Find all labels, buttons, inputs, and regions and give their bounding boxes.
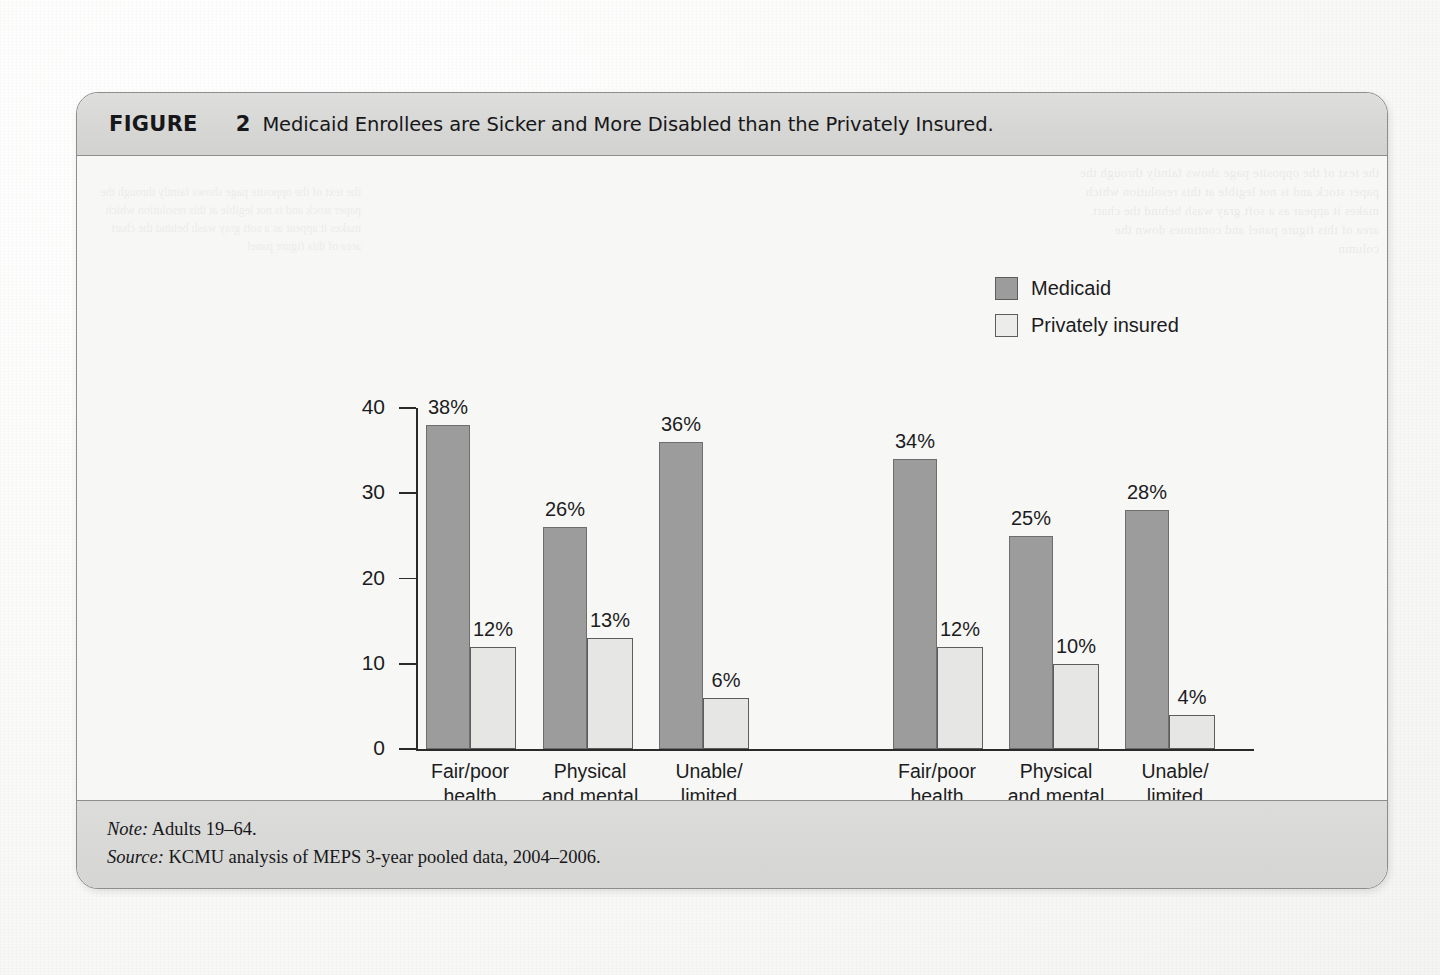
bar-privately-insured: 6% bbox=[703, 698, 749, 749]
bar-medicaid: 26% bbox=[543, 527, 587, 749]
footer-note-text: Adults 19–64. bbox=[148, 819, 256, 839]
bar-value-label: 10% bbox=[1056, 635, 1096, 658]
bar-privately-insured: 10% bbox=[1053, 664, 1099, 749]
figure-header: FIGURE 2 Medicaid Enrollees are Sicker a… bbox=[77, 93, 1387, 156]
bar-value-label: 13% bbox=[590, 609, 630, 632]
figure-label: FIGURE bbox=[109, 112, 198, 136]
category-label-line: Unable/ bbox=[1141, 760, 1208, 782]
bar-medicaid: 38% bbox=[426, 425, 470, 749]
bar-value-label: 34% bbox=[895, 430, 935, 453]
figure-card: the text of the opposite page shows fain… bbox=[76, 92, 1388, 889]
bar-privately-insured: 12% bbox=[937, 647, 983, 749]
bar-privately-insured: 13% bbox=[587, 638, 633, 749]
bar-value-label: 26% bbox=[545, 498, 585, 521]
bar-medicaid: 25% bbox=[1009, 536, 1053, 749]
chart-plot-area: Medicaid Privately insured 010203040 38%… bbox=[77, 155, 1387, 800]
bar-value-label: 38% bbox=[428, 396, 468, 419]
bar-value-label: 28% bbox=[1127, 481, 1167, 504]
footer-source-text: KCMU analysis of MEPS 3-year pooled data… bbox=[164, 847, 601, 867]
bar-medicaid: 34% bbox=[893, 459, 937, 749]
figure-footer: Note: Adults 19–64. Source: KCMU analysi… bbox=[77, 800, 1387, 888]
category-label-line: Fair/poor bbox=[898, 760, 976, 782]
bars-layer: 38%12%26%13%36%6%34%12%25%10%28%4% bbox=[77, 155, 1387, 751]
category-label-line: Physical bbox=[1020, 760, 1093, 782]
category-label-line: Physical bbox=[554, 760, 627, 782]
bar-medicaid: 36% bbox=[659, 442, 703, 749]
figure-title: Medicaid Enrollees are Sicker and More D… bbox=[262, 113, 993, 136]
footer-note: Note: Adults 19–64. bbox=[107, 815, 1387, 843]
bar-value-label: 6% bbox=[712, 669, 741, 692]
footer-note-key: Note: bbox=[107, 819, 148, 839]
footer-source-key: Source: bbox=[107, 847, 164, 867]
bar-privately-insured: 12% bbox=[470, 647, 516, 749]
bar-value-label: 36% bbox=[661, 413, 701, 436]
bar-value-label: 12% bbox=[473, 618, 513, 641]
footer-source: Source: KCMU analysis of MEPS 3-year poo… bbox=[107, 843, 1387, 871]
bar-value-label: 12% bbox=[940, 618, 980, 641]
category-label-line: Fair/poor bbox=[431, 760, 509, 782]
bar-medicaid: 28% bbox=[1125, 510, 1169, 749]
bar-value-label: 25% bbox=[1011, 507, 1051, 530]
category-label-line: Unable/ bbox=[675, 760, 742, 782]
bar-value-label: 4% bbox=[1178, 686, 1207, 709]
bar-privately-insured: 4% bbox=[1169, 715, 1215, 749]
figure-number: 2 bbox=[236, 112, 251, 136]
